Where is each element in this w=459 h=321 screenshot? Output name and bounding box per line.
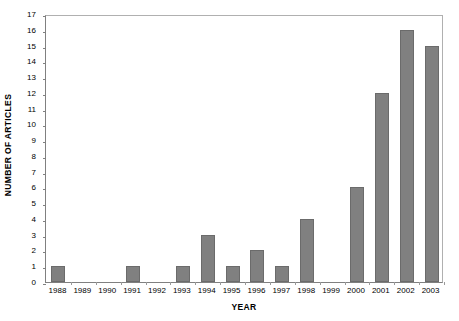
y-axis-tick-label: 7	[32, 169, 36, 177]
x-axis-tick-label: 2002	[397, 286, 415, 296]
x-axis-tick-label: 1995	[223, 286, 241, 296]
bar	[176, 266, 190, 282]
y-axis-tick-label: 10	[27, 121, 36, 129]
bar	[375, 93, 389, 282]
x-axis-tick-mark	[220, 282, 221, 285]
x-axis-tick-label: 2001	[372, 286, 390, 296]
y-axis-tick-label: 4	[32, 216, 36, 224]
y-axis-tick-label: 2	[32, 247, 36, 255]
y-axis-tick-label: 3	[32, 232, 36, 240]
x-axis-tick-mark	[394, 282, 395, 285]
bar	[201, 235, 215, 282]
x-axis-tick-label: 2000	[347, 286, 365, 296]
y-axis-title-text: NUMBER OF ARTICLES	[3, 94, 13, 196]
y-axis-tick-label: 16	[27, 27, 36, 35]
x-axis-tick-label: 1992	[148, 286, 166, 296]
y-axis-tick-label: 0	[32, 279, 36, 287]
x-axis-tick-label: 1991	[123, 286, 141, 296]
y-axis-tick-label: 13	[27, 74, 36, 82]
x-axis-tick-mark	[96, 282, 97, 285]
bar	[300, 219, 314, 282]
y-axis-tick-label: 15	[27, 43, 36, 51]
y-axis-tick-label: 5	[32, 200, 36, 208]
y-axis-tick-label: 8	[32, 153, 36, 161]
bar	[126, 266, 140, 282]
bar	[226, 266, 240, 282]
y-axis-tick-label: 1	[32, 263, 36, 271]
bar	[400, 30, 414, 282]
x-axis-tick-label: 1994	[198, 286, 216, 296]
x-axis-tick-mark	[170, 282, 171, 285]
x-axis-tick-label: 1993	[173, 286, 191, 296]
x-axis-tick-label: 1998	[297, 286, 315, 296]
x-axis-tick-mark	[295, 282, 296, 285]
bar	[350, 187, 364, 282]
y-axis-tick-label: 9	[32, 137, 36, 145]
x-axis-tick-mark	[121, 282, 122, 285]
x-axis-tick-mark	[320, 282, 321, 285]
bar	[425, 46, 439, 282]
x-axis-tick-mark	[345, 282, 346, 285]
x-axis-tick-label: 1990	[98, 286, 116, 296]
plot-area	[45, 15, 443, 283]
x-axis-tick-label: 1988	[49, 286, 67, 296]
x-axis-tick-mark	[146, 282, 147, 285]
x-axis-tick-mark	[444, 282, 445, 285]
y-axis-tick-mark	[43, 284, 46, 285]
x-axis-tick-mark	[71, 282, 72, 285]
bar	[275, 266, 289, 282]
x-axis-tick-label: 1997	[272, 286, 290, 296]
y-axis-tick-label: 6	[32, 184, 36, 192]
x-axis-tick-labels: 1988198919901991199219931994199519961997…	[45, 286, 443, 300]
bar-chart: NUMBER OF ARTICLES 012345678910111213141…	[0, 0, 459, 321]
x-axis-tick-mark	[369, 282, 370, 285]
x-axis-tick-label: 1999	[322, 286, 340, 296]
y-axis-tick-label: 12	[27, 90, 36, 98]
bar	[250, 250, 264, 282]
x-axis-tick-label: 1996	[248, 286, 266, 296]
y-axis-tick-label: 14	[27, 58, 36, 66]
y-axis-tick-label: 11	[28, 106, 36, 114]
y-axis-tick-labels: 01234567891011121314151617	[18, 15, 39, 283]
x-axis-tick-mark	[195, 282, 196, 285]
x-axis-tick-mark	[270, 282, 271, 285]
y-axis-tick-label: 17	[27, 11, 36, 19]
x-axis-tick-mark	[419, 282, 420, 285]
x-axis-title: YEAR	[45, 302, 443, 312]
bars-container	[46, 16, 442, 282]
x-axis-tick-mark	[245, 282, 246, 285]
bar	[51, 266, 65, 282]
x-axis-tick-label: 2003	[422, 286, 440, 296]
x-axis-title-text: YEAR	[231, 302, 256, 312]
x-axis-tick-label: 1989	[73, 286, 91, 296]
y-axis-title: NUMBER OF ARTICLES	[0, 0, 16, 290]
